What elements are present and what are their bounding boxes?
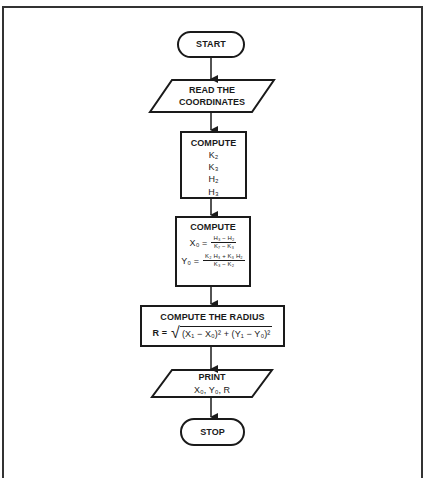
radical-sign-icon: √	[171, 325, 180, 341]
y0-equation: Y₀ = K₂ H₃ + K₃ H₂ K₃ − K₂	[181, 253, 245, 269]
print-line-2: X₀, Y₀, R	[194, 384, 230, 396]
compute1-item: H₃	[208, 186, 218, 198]
x0-lhs: X₀ =	[190, 237, 208, 249]
radius-title: COMPUTE THE RADIUS	[160, 311, 264, 323]
read-coordinates-text: READ THE COORDINATES	[160, 82, 264, 110]
y0-fraction: K₂ H₃ + K₃ H₂ K₃ − K₂	[203, 253, 245, 269]
x0-equation: X₀ = H₃ − H₂ K₇ − K₃	[190, 235, 237, 251]
radius-equation: R = √ (X₁ − X₀)² + (Y₁ − Y₀)²	[153, 325, 273, 341]
compute1-title: COMPUTE	[191, 137, 237, 149]
compute2-title: COMPUTE	[190, 221, 236, 233]
x0-numerator: H₃ − H₂	[211, 235, 236, 243]
compute1-item: K₃	[209, 161, 219, 173]
y0-denominator: K₃ − K₂	[214, 261, 234, 269]
compute-radius-box: COMPUTE THE RADIUS R = √ (X₁ − X₀)² + (Y…	[140, 305, 285, 347]
read-line-1: READ THE	[189, 84, 235, 96]
x0-denominator: K₇ − K₃	[214, 243, 234, 251]
stop-terminator: STOP	[180, 418, 245, 446]
x0-fraction: H₃ − H₂ K₇ − K₃	[211, 235, 236, 251]
y0-lhs: Y₀ =	[181, 255, 199, 267]
start-label: START	[196, 38, 226, 50]
compute1-item: H₂	[208, 173, 218, 185]
print-output-text: PRINT X₀, Y₀, R	[162, 371, 262, 396]
compute-center-box: COMPUTE X₀ = H₃ − H₂ K₇ − K₃ Y₀ = K₂ H₃ …	[175, 216, 251, 287]
radius-lhs: R =	[153, 327, 168, 339]
start-terminator: START	[177, 31, 245, 58]
square-root: √ (X₁ − X₀)² + (Y₁ − Y₀)²	[171, 325, 272, 341]
compute1-item: K₂	[209, 149, 219, 161]
y0-numerator: K₂ H₃ + K₃ H₂	[203, 253, 245, 261]
print-line-1: PRINT	[199, 371, 226, 383]
read-line-2: COORDINATES	[179, 96, 245, 108]
radicand: (X₁ − X₀)² + (Y₁ − Y₀)²	[180, 326, 272, 340]
stop-label: STOP	[200, 426, 225, 438]
compute-k-h-box: COMPUTE K₂ K₃ H₂ H₃	[180, 131, 247, 199]
